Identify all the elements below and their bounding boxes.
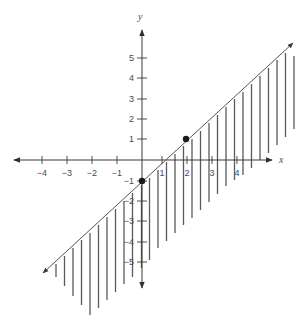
x-tick-label: 4 [234,168,239,178]
y-tick-label: 5 [129,53,134,63]
x-tick-label: −1 [112,168,122,178]
plotted-point [183,136,189,142]
x-tick-label: −2 [87,168,97,178]
y-tick-label: −5 [124,257,134,267]
x-tick-label: 3 [209,168,214,178]
y-tick-label: −2 [124,196,134,206]
y-tick-label: −4 [124,237,134,247]
x-axis-label: x [278,154,284,165]
x-tick-label: −4 [37,168,47,178]
inequality-graph: xy −4−3−2−1123454321−1−2−3−4−5 [0,0,307,324]
y-tick-label: −1 [124,176,134,186]
x-tick-label: 1 [159,168,164,178]
y-tick-label: 2 [129,114,134,124]
shaded-region-hatching [56,53,294,315]
x-tick-label: 2 [184,168,189,178]
y-axis-label: y [137,11,143,22]
boundary-line-y-equals-x-minus-1 [43,43,293,273]
plotted-point [139,178,145,184]
y-tick-label: 4 [129,73,134,83]
y-tick-label: 3 [129,94,134,104]
y-tick-label: −3 [124,216,134,226]
boundary-line [43,43,293,273]
x-tick-label: −3 [62,168,72,178]
y-tick-label: 1 [129,134,134,144]
